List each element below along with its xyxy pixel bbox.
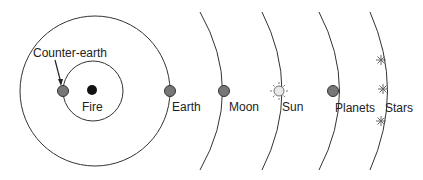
label-counter-earth: Counter-earth: [33, 47, 107, 59]
label-planets: Planets: [335, 102, 375, 114]
label-stars: Stars: [385, 102, 413, 114]
fire-icon: [87, 85, 97, 95]
counter-earth-icon: [58, 86, 69, 97]
sun-icon: [270, 82, 288, 100]
cosmos-diagram: [0, 0, 423, 180]
label-earth: Earth: [172, 101, 201, 113]
label-moon: Moon: [229, 101, 259, 113]
label-sun: Sun: [282, 101, 303, 113]
planets-icon: [328, 86, 339, 97]
label-fire: Fire: [82, 101, 103, 113]
earth-icon: [165, 86, 176, 97]
moon-icon: [219, 86, 230, 97]
